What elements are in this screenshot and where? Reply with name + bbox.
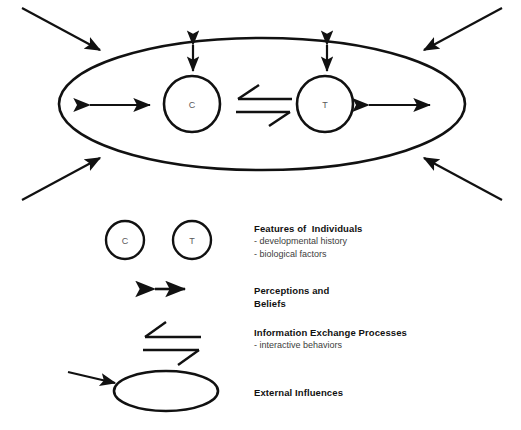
- diagram-svg: C T: [0, 0, 521, 430]
- node-t-label: T: [322, 100, 328, 110]
- legend-symbol-ellipse-with-arrow: [68, 371, 218, 411]
- legend-title-perceptions: Perceptions and Beliefs: [254, 284, 329, 310]
- information-exchange-harpoons: [236, 85, 292, 126]
- legend-title-information-exchange: Information Exchange Processes: [254, 326, 407, 339]
- legend-line-biological-factors: - biological factors: [254, 248, 363, 261]
- legend-title-external-influences: External Influences: [254, 386, 343, 399]
- legend-item-information-exchange-processes: Information Exchange Processes - interac…: [254, 326, 407, 352]
- legend-circle-c-label: C: [122, 236, 129, 246]
- legend-item-features-of-individuals: Features of Individuals - developmental …: [254, 222, 363, 260]
- node-c-label: C: [189, 100, 196, 110]
- legend-line-interactive-behaviors: - interactive behaviors: [254, 339, 407, 352]
- external-arrow-top-left: [22, 8, 100, 50]
- node-t: T: [297, 76, 353, 132]
- legend-item-external-influences: External Influences: [254, 386, 343, 399]
- legend-item-perceptions-and-beliefs: Perceptions and Beliefs: [254, 284, 329, 310]
- legend-ellipse: [114, 371, 218, 411]
- external-arrow-top-right: [424, 8, 502, 50]
- diagram-canvas: C T: [0, 0, 521, 430]
- legend-line-developmental-history: - developmental history: [254, 235, 363, 248]
- external-arrow-bottom-right: [424, 158, 502, 200]
- legend-circle-t-label: T: [189, 236, 195, 246]
- external-arrow-bottom-left: [22, 158, 100, 200]
- legend-symbol-equilibrium: [143, 322, 201, 365]
- node-c: C: [164, 76, 220, 132]
- legend-title-features: Features of Individuals: [254, 222, 363, 235]
- legend-external-arrow: [68, 372, 115, 383]
- legend-symbol-two-circles: C T: [106, 221, 211, 259]
